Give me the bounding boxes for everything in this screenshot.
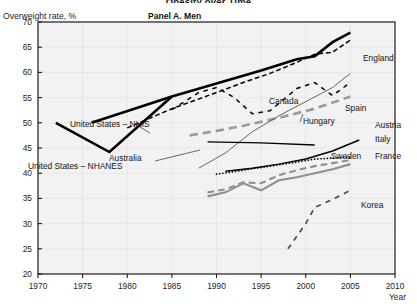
y-tick-label: 70 — [23, 17, 33, 27]
y-tick-label: 25 — [23, 244, 33, 254]
x-tick-label: 2010 — [386, 281, 405, 291]
series-label-hungary: Hungary — [303, 116, 335, 126]
x-tick-label: 1980 — [118, 281, 137, 291]
series-label-australia: Australia — [109, 153, 142, 163]
series-label-korea: Korea — [361, 200, 384, 210]
series-label-spain: Spain — [345, 103, 367, 113]
x-tick-label: 2000 — [296, 281, 315, 291]
x-tick-label: 1975 — [73, 281, 92, 291]
chart-figure: Obesity over Time Overweight rate, % Pan… — [0, 0, 417, 306]
series-label-canada: Canada — [269, 96, 299, 106]
x-tick-label: 2005 — [341, 281, 360, 291]
series-label-austria: Austria — [375, 120, 401, 130]
series-label-england: England — [363, 53, 394, 63]
x-tick-label: 1990 — [207, 281, 226, 291]
y-tick-label: 30 — [23, 219, 33, 229]
y-tick-label: 55 — [23, 93, 33, 103]
series-label-france: France — [375, 151, 401, 161]
y-tick-label: 65 — [23, 42, 33, 52]
x-tick-label: 1970 — [29, 281, 48, 291]
y-tick-label: 45 — [23, 143, 33, 153]
plot-canvas: 2025303540455055606570197019751980198519… — [0, 0, 417, 306]
y-tick-label: 50 — [23, 118, 33, 128]
series-label-united-states-nhis: United States – NHIS — [70, 119, 150, 129]
y-tick-label: 60 — [23, 67, 33, 77]
x-tick-label: 1995 — [252, 281, 271, 291]
y-tick-label: 35 — [23, 193, 33, 203]
y-tick-label: 20 — [23, 269, 33, 279]
series-label-italy: Italy — [375, 134, 391, 144]
x-tick-label: 1985 — [163, 281, 182, 291]
series-label-sweden: Sweden — [331, 151, 362, 161]
